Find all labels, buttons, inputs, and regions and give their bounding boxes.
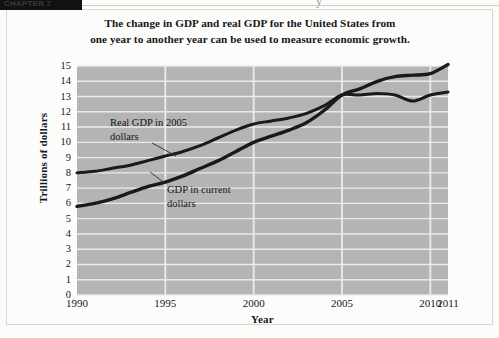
annotation-current-gdp: GDP in current dollars: [167, 183, 231, 211]
x-axis-label: Year: [77, 313, 448, 325]
y-axis-tick-3: 3: [47, 243, 71, 254]
y-axis-tick-8: 8: [47, 167, 71, 178]
y-axis-tick-15: 15: [47, 60, 71, 71]
annotation-current-gdp-line-2: dollars: [167, 197, 231, 211]
leader-line-real-gdp: [152, 143, 176, 156]
x-axis-tick-2011: 2011: [420, 297, 476, 310]
x-axis-tick-2000: 2000: [226, 297, 282, 310]
figure-container: CHAPTER 7 y The change in GDP and real G…: [0, 0, 499, 338]
y-axis-tick-9: 9: [47, 152, 71, 163]
y-axis-tick-5: 5: [47, 213, 71, 224]
y-axis-tick-1: 1: [47, 274, 71, 285]
y-axis-tick-6: 6: [47, 197, 71, 208]
leader-line-current-gdp: [150, 172, 166, 184]
y-axis-tick-11: 11: [47, 121, 71, 132]
annotation-real-gdp-line-2: dollars: [110, 130, 187, 144]
y-axis-tick-14: 14: [47, 75, 71, 86]
annotation-real-gdp: Real GDP in 2005 dollars: [110, 116, 187, 144]
y-axis-tick-7: 7: [47, 182, 71, 193]
x-axis-tick-1990: 1990: [49, 297, 105, 310]
y-axis-tick-4: 4: [47, 228, 71, 239]
y-axis-tick-12: 12: [47, 106, 71, 117]
x-axis-tick-1995: 1995: [137, 297, 193, 310]
annotation-current-gdp-line-1: GDP in current: [167, 183, 231, 197]
y-axis-tick-13: 13: [47, 91, 71, 102]
y-axis-tick-10: 10: [47, 136, 71, 147]
y-axis-label: Trillions of dollars: [37, 78, 49, 238]
data-lines: [0, 0, 499, 338]
annotation-real-gdp-line-1: Real GDP in 2005: [110, 116, 187, 130]
y-axis-tick-2: 2: [47, 258, 71, 269]
x-axis-tick-2005: 2005: [314, 297, 370, 310]
